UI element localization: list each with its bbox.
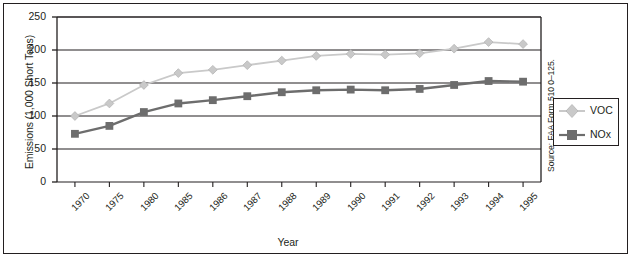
legend-item-nox: NOx bbox=[554, 123, 618, 147]
data-point-voc bbox=[277, 56, 286, 65]
data-point-nox bbox=[312, 86, 320, 94]
data-point-voc bbox=[312, 52, 321, 61]
legend-label-nox: NOx bbox=[590, 128, 611, 140]
data-point-nox bbox=[278, 88, 286, 96]
data-point-voc bbox=[139, 81, 148, 90]
legend-label-voc: VOC bbox=[590, 104, 613, 116]
data-point-nox bbox=[71, 130, 79, 138]
data-point-nox bbox=[243, 92, 251, 100]
chart-legend: VOC NOx bbox=[553, 98, 619, 146]
legend-item-voc: VOC bbox=[554, 99, 618, 123]
y-tick-label: 250 bbox=[16, 10, 46, 22]
data-point-voc bbox=[71, 112, 80, 121]
data-point-voc bbox=[484, 38, 493, 47]
data-point-nox bbox=[106, 122, 114, 130]
y-tick-label: 200 bbox=[16, 43, 46, 55]
data-point-nox bbox=[450, 81, 458, 89]
source-note: Source: FAA Form 510 0–125. bbox=[546, 12, 556, 172]
voc-marker-icon bbox=[557, 99, 587, 123]
data-point-nox bbox=[140, 108, 148, 116]
data-point-nox bbox=[381, 86, 389, 94]
data-point-nox bbox=[347, 86, 355, 94]
data-point-voc bbox=[105, 99, 114, 108]
data-point-nox bbox=[174, 100, 182, 108]
data-point-nox bbox=[209, 96, 217, 104]
data-point-voc bbox=[346, 50, 355, 59]
data-point-voc bbox=[208, 65, 217, 74]
x-axis-title: Year bbox=[228, 236, 348, 248]
series-line-nox bbox=[75, 81, 523, 134]
chart-figure: Emissions (1,000 Short Tons) Year Source… bbox=[0, 0, 640, 264]
y-tick-label: 100 bbox=[16, 109, 46, 121]
series-line-voc bbox=[75, 42, 523, 116]
data-point-voc bbox=[519, 40, 528, 49]
data-point-voc bbox=[243, 61, 252, 70]
y-tick-label: 150 bbox=[16, 76, 46, 88]
y-tick-label: 0 bbox=[16, 175, 46, 187]
nox-marker-icon bbox=[557, 123, 587, 147]
data-point-voc bbox=[450, 44, 459, 53]
data-point-nox bbox=[485, 77, 493, 85]
data-point-voc bbox=[381, 50, 390, 59]
data-point-voc bbox=[174, 69, 183, 78]
data-point-nox bbox=[519, 78, 527, 86]
data-point-nox bbox=[416, 85, 424, 93]
y-tick-label: 50 bbox=[16, 142, 46, 154]
